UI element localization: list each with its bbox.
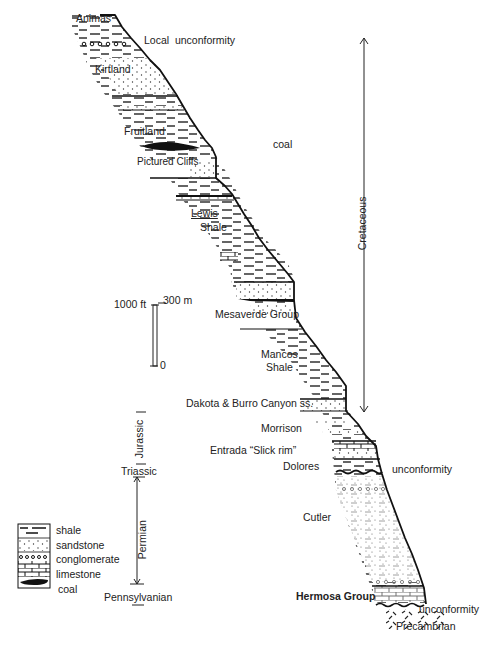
period-label-jurassic: Jurassic [134,418,145,458]
formation-label-morrison: Morrison [261,423,302,434]
formation-label-dakota: Dakota & Burro Canyon ss. [186,398,313,409]
legend-label-shale: shale [56,525,81,536]
formation-label-pictured-cliffs: Pictured Cliffs [137,157,199,167]
formation-label-cutler: Cutler [303,512,331,523]
period-label-cretaceous: Cretaceous [357,200,368,250]
annotation-unconformity-hermosa: unconformity [419,604,479,615]
formation-label-mancos: Mancos [261,349,298,360]
formation-label-kirtland: Kirtland [95,64,131,75]
formation-label-hermosa: Hermosa Group [296,591,375,602]
formation-label-lewis: Lewis [191,208,218,219]
scale-bar [150,303,166,366]
period-label-pennsylvanian: Pennsylvanian [104,592,172,603]
annotation-coal: coal [273,139,292,150]
formation-label-animas: Animas [76,13,111,24]
period-label-triassic: Triassic [121,466,157,477]
conglomerate-band-animas [80,40,132,48]
formation-label-mancos-shale: Shale [266,362,293,373]
legend-label-sandstone: sandstone [56,540,104,551]
legend-label-conglomerate: conglomerate [56,554,120,565]
annotation-unconformity-dolores: unconformity [392,464,452,475]
formation-label-entrada: Entrada “Slick rim” [210,445,296,456]
legend-label-limestone: limestone [56,569,101,580]
formation-label-dolores: Dolores [283,461,319,472]
formation-label-mesaverde: Mesaverde Group [215,309,299,320]
formation-label-lewis-shale: Shale [200,222,227,233]
formation-label-precambrian: Precambrian [396,621,456,632]
formation-label-fruitland: Fruitland [124,126,165,137]
period-label-permian: Permian [137,519,148,559]
scale-label-300m: 300 m [163,295,192,306]
scale-label-1000ft: 1000 ft [114,299,146,310]
annotation-local-unconformity: Local unconformity [144,35,235,46]
legend-label-coal: coal [58,584,77,595]
scale-label-zero: 0 [160,360,166,371]
legend-swatches [18,524,50,588]
